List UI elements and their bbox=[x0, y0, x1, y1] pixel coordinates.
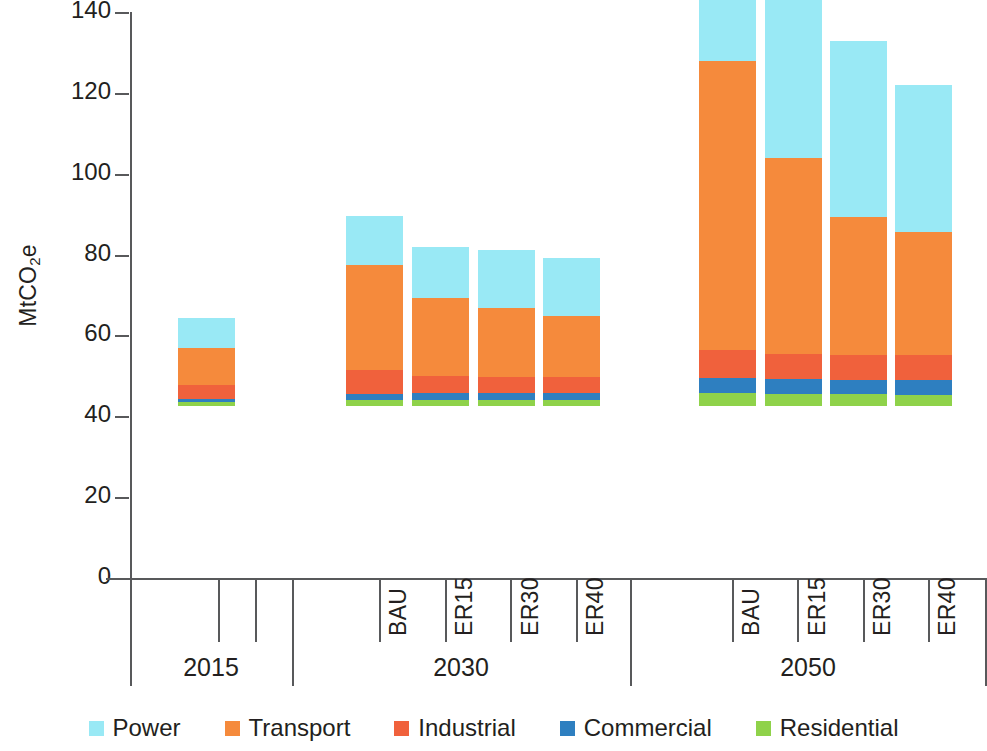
bar-segment-transport bbox=[699, 61, 756, 350]
legend-swatch-icon bbox=[394, 721, 409, 736]
bar-2015-0[interactable] bbox=[178, 317, 235, 406]
bar-er30-7[interactable] bbox=[830, 41, 887, 406]
bar-segment-power bbox=[178, 318, 235, 349]
bar-segment-industrial bbox=[346, 370, 403, 394]
bar-segment-power bbox=[699, 0, 756, 61]
x-axis-label-bau: BAU bbox=[385, 588, 412, 636]
legend-label: Industrial bbox=[418, 714, 515, 742]
bar-er40-8[interactable] bbox=[895, 85, 952, 406]
legend-item-power[interactable]: Power bbox=[89, 714, 181, 742]
legend-swatch-icon bbox=[89, 721, 104, 736]
bar-er30-3[interactable] bbox=[478, 250, 535, 406]
x-axis-group-label-2030: 2030 bbox=[401, 653, 521, 682]
x-axis-category-tick bbox=[379, 580, 381, 642]
bar-segment-transport bbox=[346, 265, 403, 369]
bar-segment-power bbox=[830, 41, 887, 217]
plot-area bbox=[0, 0, 987, 579]
bar-segment-residential bbox=[346, 400, 403, 406]
x-axis-category-tick bbox=[255, 580, 257, 642]
bar-segment-industrial bbox=[830, 355, 887, 379]
bar-segment-industrial bbox=[543, 377, 600, 393]
bar-segment-transport bbox=[478, 308, 535, 377]
bar-segment-commercial bbox=[830, 380, 887, 395]
chart-root: MtCO2e 020406080100120140 BAUER15ER30ER4… bbox=[0, 0, 987, 751]
bar-segment-transport bbox=[178, 348, 235, 385]
x-axis-label-er30: ER30 bbox=[517, 577, 544, 636]
bar-segment-power bbox=[412, 247, 469, 298]
bar-segment-commercial bbox=[699, 378, 756, 393]
bar-segment-industrial bbox=[699, 350, 756, 378]
legend-item-industrial[interactable]: Industrial bbox=[394, 714, 515, 742]
x-axis-category-tick bbox=[797, 580, 799, 642]
x-axis-category-tick bbox=[928, 580, 930, 642]
legend-item-residential[interactable]: Residential bbox=[756, 714, 899, 742]
bar-segment-industrial bbox=[765, 354, 822, 379]
bar-segment-residential bbox=[830, 394, 887, 406]
bar-segment-industrial bbox=[412, 376, 469, 393]
bar-segment-residential bbox=[895, 395, 952, 406]
x-axis-category-tick bbox=[218, 580, 220, 642]
legend-item-commercial[interactable]: Commercial bbox=[560, 714, 712, 742]
bar-segment-transport bbox=[412, 298, 469, 376]
x-axis-label-er15: ER15 bbox=[451, 577, 478, 636]
x-axis-group-separator bbox=[292, 580, 294, 686]
bar-segment-residential bbox=[765, 394, 822, 406]
bar-er15-6[interactable] bbox=[765, 0, 822, 406]
x-axis-label-er40: ER40 bbox=[582, 577, 609, 636]
bar-segment-commercial bbox=[895, 380, 952, 395]
legend-swatch-icon bbox=[560, 721, 575, 736]
bar-segment-power bbox=[895, 85, 952, 232]
bar-segment-residential bbox=[412, 400, 469, 406]
bar-segment-industrial bbox=[478, 377, 535, 393]
bar-segment-industrial bbox=[178, 385, 235, 399]
x-axis-label-er30: ER30 bbox=[869, 577, 896, 636]
bar-segment-power bbox=[346, 216, 403, 266]
bar-bau-5[interactable] bbox=[699, 0, 756, 406]
legend-swatch-icon bbox=[225, 721, 240, 736]
x-axis-label-bau: BAU bbox=[738, 588, 765, 636]
bar-segment-transport bbox=[895, 232, 952, 356]
bar-segment-transport bbox=[765, 158, 822, 354]
x-axis-group-label-2015: 2015 bbox=[151, 653, 271, 682]
bar-segment-residential bbox=[178, 402, 235, 406]
bar-segment-residential bbox=[478, 400, 535, 406]
bar-segment-power bbox=[765, 0, 822, 158]
bar-segment-power bbox=[478, 250, 535, 309]
x-axis-category-tick bbox=[445, 580, 447, 642]
bar-er40-4[interactable] bbox=[543, 258, 600, 406]
legend-label: Power bbox=[113, 714, 181, 742]
x-axis-label-er40: ER40 bbox=[934, 577, 961, 636]
legend-item-transport[interactable]: Transport bbox=[225, 714, 351, 742]
bar-segment-residential bbox=[699, 393, 756, 406]
bar-segment-residential bbox=[543, 400, 600, 406]
legend-label: Residential bbox=[780, 714, 899, 742]
x-axis-group-separator bbox=[130, 580, 132, 686]
legend-label: Commercial bbox=[584, 714, 712, 742]
bar-segment-commercial bbox=[765, 379, 822, 394]
bar-segment-transport bbox=[543, 316, 600, 377]
legend-label: Transport bbox=[249, 714, 351, 742]
x-axis-group-label-2050: 2050 bbox=[748, 653, 868, 682]
x-axis-group-separator bbox=[630, 580, 632, 686]
bar-bau-1[interactable] bbox=[346, 216, 403, 406]
x-axis-label-er15: ER15 bbox=[804, 577, 831, 636]
x-axis-category-tick bbox=[732, 580, 734, 642]
bar-segment-industrial bbox=[895, 355, 952, 380]
bar-segment-power bbox=[543, 258, 600, 316]
legend-swatch-icon bbox=[756, 721, 771, 736]
x-axis-category-tick bbox=[576, 580, 578, 642]
x-axis-category-tick bbox=[863, 580, 865, 642]
bar-segment-transport bbox=[830, 217, 887, 355]
x-axis-category-tick bbox=[510, 580, 512, 642]
chart-legend: PowerTransportIndustrialCommercialReside… bbox=[0, 714, 987, 742]
bar-er15-2[interactable] bbox=[412, 247, 469, 406]
